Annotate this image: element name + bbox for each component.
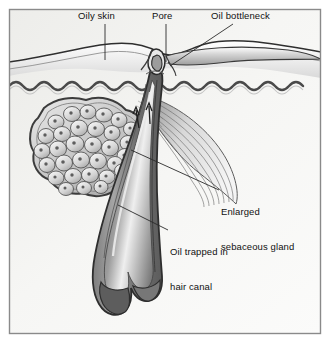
diagram-canvas [0, 0, 330, 343]
label-enlarged-line-1: Enlarged [221, 206, 294, 218]
label-oil-trapped-line-2: hair canal [170, 281, 228, 293]
skin-cross-section-figure: Oily skin Pore Oil bottleneck Enlarged s… [0, 0, 330, 343]
label-oil-trapped-line-1: Oil trapped in [170, 246, 228, 258]
label-oil-trapped-in-hair-canal: Oil trapped in hair canal [170, 223, 228, 315]
label-enlarged-sebaceous-gland: Enlarged sebaceous gland [221, 183, 294, 275]
label-oil-bottleneck: Oil bottleneck [211, 10, 270, 22]
label-enlarged-line-2: sebaceous gland [221, 241, 294, 253]
label-pore: Pore [152, 10, 172, 22]
label-oily-skin: Oily skin [78, 10, 115, 22]
